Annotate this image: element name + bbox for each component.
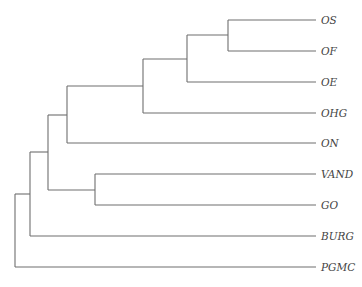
leaf-label-os: OS [321,14,337,26]
leaf-label-go: GO [321,199,338,211]
dendrogram: OS OF OE OHG ON VAND GO BURG PGMC [0,0,362,287]
leaf-labels: OS OF OE OHG ON VAND GO BURG PGMC [320,14,355,273]
branches [15,20,316,267]
leaf-label-oe: OE [321,76,338,88]
leaf-label-vand: VAND [321,168,354,180]
leaf-label-ohg: OHG [321,107,347,119]
leaf-label-of: OF [321,45,338,57]
leaf-label-pgmc: PGMC [320,261,355,273]
leaf-label-burg: BURG [320,230,354,242]
leaf-label-on: ON [321,137,340,149]
